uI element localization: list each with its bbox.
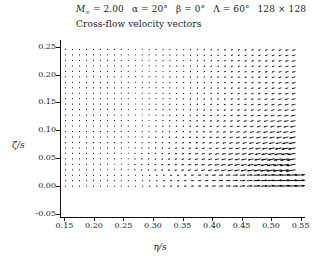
x-tick-label: 0.55 — [284, 222, 318, 230]
y-tick-mark — [56, 102, 60, 103]
y-tick-label: 0.00 — [30, 182, 56, 190]
grid-size: 128 × 128 — [258, 4, 307, 14]
mach-subscript: ∞ — [85, 9, 90, 15]
x-tick-mark — [153, 218, 154, 221]
x-tick-mark — [271, 218, 272, 221]
x-tick-mark — [301, 218, 302, 221]
x-tick-mark — [64, 218, 65, 221]
y-axis-line — [60, 40, 61, 218]
x-tick-mark — [123, 218, 124, 221]
y-tick-label: -0.05 — [30, 210, 56, 218]
y-tick-mark — [56, 47, 60, 48]
figure-title-line-1: M∞ = 2.00 α = 20° β = 0° Λ = 60° 128 × 1… — [76, 3, 320, 18]
y-tick-mark — [56, 214, 60, 215]
y-tick-label: 0.15 — [30, 98, 56, 106]
alpha-value: α = 20° — [132, 4, 168, 14]
y-tick-label: 0.25 — [30, 43, 56, 51]
figure-title-line-2: Cross-flow velocity vectors — [76, 18, 320, 30]
mach-value: = 2.00 — [93, 4, 124, 14]
x-tick-mark — [242, 218, 243, 221]
y-tick-label: 0.20 — [30, 71, 56, 79]
y-tick-label: 0.05 — [30, 154, 56, 162]
figure-title-block: M∞ = 2.00 α = 20° β = 0° Λ = 60° 128 × 1… — [76, 3, 320, 30]
lambda-value: Λ = 60° — [213, 4, 249, 14]
y-tick-mark — [56, 158, 60, 159]
beta-value: β = 0° — [176, 4, 205, 14]
x-tick-mark — [212, 218, 213, 221]
velocity-vector-field — [60, 40, 305, 218]
x-axis-title: η/s — [0, 242, 320, 252]
y-axis-title: ζ/s — [12, 140, 25, 150]
figure-container: M∞ = 2.00 α = 20° β = 0° Λ = 60° 128 × 1… — [0, 0, 320, 266]
x-tick-mark — [94, 218, 95, 221]
x-tick-mark — [183, 218, 184, 221]
plot-area — [60, 40, 305, 218]
y-tick-mark — [56, 186, 60, 187]
y-tick-label: 0.10 — [30, 126, 56, 134]
y-tick-mark — [56, 130, 60, 131]
y-tick-mark — [56, 75, 60, 76]
mach-symbol: M — [76, 4, 85, 14]
